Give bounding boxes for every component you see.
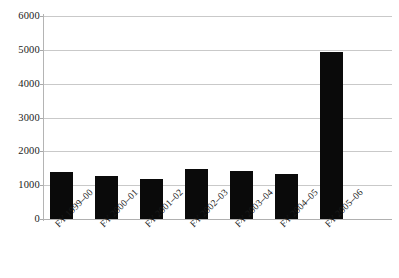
y-axis-tick-label: 2000: [0, 146, 40, 157]
plot-area: [44, 16, 392, 219]
y-axis-tick-label: 6000: [0, 11, 40, 22]
y-axis-tick-labels: 0100020003000400050006000: [0, 16, 40, 219]
bar-chart: 0100020003000400050006000 FY 1999–00FY 2…: [0, 0, 399, 278]
y-axis-tickmark: [40, 185, 43, 186]
y-axis-tickmark: [40, 151, 43, 152]
y-axis-tick-label: 5000: [0, 45, 40, 56]
bar: [320, 52, 343, 219]
x-axis-tick-labels: FY 1999–00FY 2000–01FY 2001–02FY 2002–03…: [0, 222, 399, 278]
y-axis-tickmark: [40, 16, 43, 17]
y-axis-tickmark: [40, 50, 43, 51]
y-axis-tick-label: 4000: [0, 79, 40, 90]
gridline: [44, 16, 392, 17]
y-axis-tickmark: [40, 118, 43, 119]
y-axis-tick-label: 3000: [0, 113, 40, 124]
y-axis-tickmark: [40, 219, 43, 220]
y-axis-tick-label: 1000: [0, 180, 40, 191]
y-axis-tickmark: [40, 84, 43, 85]
